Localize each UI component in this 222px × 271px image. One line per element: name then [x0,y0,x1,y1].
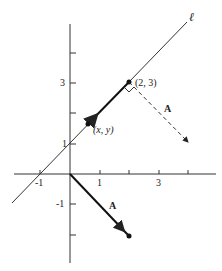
segment-arrowhead [92,115,97,121]
point-x-y-label: (x, y) [93,124,114,136]
dashed-vector-a [129,82,188,142]
x-tick-label-neg1: -1 [35,177,43,188]
point-x-y [86,122,91,127]
x-tick-label-1: 1 [97,177,102,188]
vector-a-arrowhead [118,225,124,232]
vector-a-endpoint [127,234,132,239]
line-l-label: ℓ [189,10,194,24]
dashed-vector-a-label: A [164,103,172,114]
point-2-3-label: (2, 3) [135,77,157,89]
right-angle-marker [124,87,134,92]
y-tick-label-3: 3 [60,77,65,88]
vector-a-label: A [109,200,117,211]
y-ticks [70,53,76,235]
x-ticks [40,170,188,174]
y-tick-label-neg1: -1 [56,198,64,209]
vector-diagram: -1 1 3 3 1 -1 ℓ (2, 3) (x, y) A A [0,0,222,271]
x-tick-label-3: 3 [156,177,161,188]
